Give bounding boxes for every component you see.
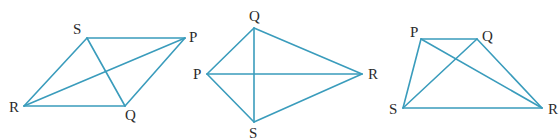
vertex-label-p: P — [193, 66, 201, 82]
side-rs — [24, 38, 87, 106]
parallelogram-figure: SPQR — [9, 21, 197, 123]
side-sp — [403, 39, 421, 108]
side-rs — [254, 74, 362, 122]
vertex-label-p: P — [189, 29, 197, 45]
vertex-label-s: S — [249, 125, 257, 139]
vertex-label-s: S — [73, 21, 81, 37]
vertex-label-r: R — [548, 101, 558, 117]
kite-figure: QRSP — [193, 8, 378, 139]
vertex-label-r: R — [9, 99, 19, 115]
side-sp — [207, 74, 254, 122]
vertex-label-p: P — [410, 24, 418, 40]
vertex-label-q: Q — [125, 107, 136, 123]
side-pq — [125, 38, 185, 106]
vertex-label-q: Q — [482, 28, 493, 44]
quadrilaterals-diagram: SPQRQRSPPQRS — [0, 0, 560, 139]
vertex-label-q: Q — [249, 8, 260, 24]
diagonal-rp — [24, 38, 185, 106]
vertex-label-r: R — [368, 66, 378, 82]
side-pq — [207, 28, 254, 74]
trapezium-figure: PQRS — [389, 24, 558, 117]
side-qr — [477, 39, 542, 108]
vertex-label-s: S — [389, 101, 397, 117]
side-qr — [254, 28, 362, 74]
